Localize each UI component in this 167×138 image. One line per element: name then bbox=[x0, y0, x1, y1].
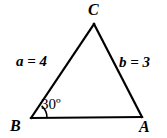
vertex-label-c: C bbox=[88, 2, 99, 18]
vertex-label-a: A bbox=[139, 119, 150, 135]
triangle-figure: C B A a = 4 b = 3 30º bbox=[0, 0, 167, 138]
vertex-label-b: B bbox=[10, 118, 21, 134]
side-b-line bbox=[94, 24, 142, 117]
side-label-b: b = 3 bbox=[119, 55, 150, 70]
side-label-a: a = 4 bbox=[16, 54, 47, 69]
angle-label-b: 30º bbox=[41, 97, 61, 112]
